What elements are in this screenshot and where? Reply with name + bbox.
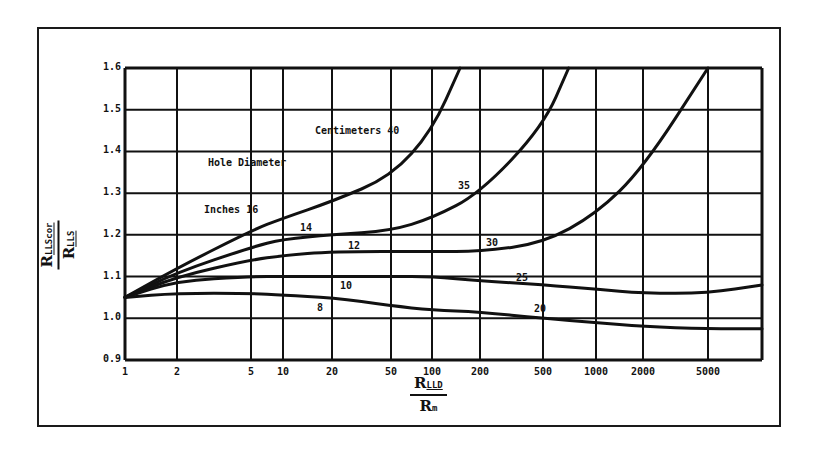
x-tick-label: 2 (174, 366, 180, 377)
x-tick-label: 5000 (696, 366, 720, 377)
curve-label-35: 35 (458, 180, 470, 191)
chart-plot (0, 0, 816, 451)
curve-label-10: 10 (340, 280, 352, 291)
y-label-numerator: R (38, 255, 56, 267)
x-tick-label: 500 (534, 366, 552, 377)
y-label-denominator-subscript: LLS (66, 231, 76, 247)
curve-label-8: 8 (317, 302, 323, 313)
y-label-denominator: R (60, 247, 78, 259)
curve-label-30: 30 (486, 237, 498, 248)
x-tick-label: 20 (326, 366, 338, 377)
y-label-numerator-subscript: LLScor (44, 223, 54, 256)
y-tick-label: 1.6 (93, 61, 121, 72)
curve-label-40: 40 (387, 125, 399, 136)
x-tick-label: 1 (122, 366, 128, 377)
x-label-numerator-subscript: LLD (426, 380, 442, 390)
y-tick-label: 1.5 (93, 103, 121, 114)
centimeters-label: Centimeters (315, 125, 381, 136)
x-label-numerator: R (414, 374, 426, 392)
curve-8-in (125, 293, 762, 328)
curve-12-in (125, 68, 708, 297)
curve-label-20: 20 (534, 303, 546, 314)
x-axis-label: RLLD Rm (410, 374, 447, 415)
data-curves (125, 68, 762, 329)
x-tick-label: 5 (248, 366, 254, 377)
y-tick-label: 0.9 (93, 353, 121, 364)
y-tick-label: 1.2 (93, 228, 121, 239)
curve-label-16: 16 (246, 204, 258, 215)
x-tick-label: 1000 (584, 366, 608, 377)
x-tick-label: 2000 (631, 366, 655, 377)
y-tick-label: 1.0 (93, 311, 121, 322)
y-axis-label: RLLScor RLLS (38, 160, 78, 330)
inches-label: Inches (204, 204, 240, 215)
curve-label-12: 12 (348, 240, 360, 251)
y-tick-label: 1.4 (93, 144, 121, 155)
curve-14-in (125, 68, 569, 297)
x-label-denominator-subscript: m (432, 403, 437, 413)
curve-label-25: 25 (516, 272, 528, 283)
x-tick-label: 200 (471, 366, 489, 377)
curve-label-14: 14 (300, 222, 312, 233)
x-tick-label: 50 (385, 366, 397, 377)
hole-diameter-annotation: Hole Diameter (208, 157, 286, 168)
centimeters-annotation: Centimeters 40 (315, 125, 399, 136)
y-tick-label: 1.3 (93, 186, 121, 197)
x-label-denominator: R (419, 397, 431, 415)
inches-annotation: Inches 16 (204, 204, 258, 215)
curve-16-in (125, 68, 460, 297)
y-tick-label: 1.1 (93, 270, 121, 281)
x-tick-label: 10 (277, 366, 289, 377)
